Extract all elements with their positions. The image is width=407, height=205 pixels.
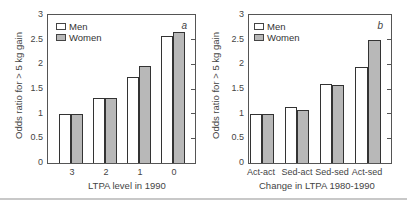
legend-men: Men (69, 21, 87, 32)
bar-men-3 (59, 114, 71, 163)
x-tick-label: Act-act (241, 167, 281, 177)
bar-women-act-sed (368, 40, 381, 163)
y-tick-label: 2.5 (23, 34, 43, 44)
x-axis-label: LTPA level in 1990 (88, 180, 166, 191)
bar-men-0 (161, 36, 173, 163)
legend-men: Men (267, 21, 285, 32)
legend-women: Women (267, 32, 300, 43)
y-axis-label: Odds ratio for > 5 kg gain (210, 32, 221, 139)
bar-men-2 (93, 98, 105, 163)
bar-women-sed-sed (332, 85, 344, 163)
bar-men-act-sed (355, 67, 368, 163)
y-tick-label: 3 (224, 9, 244, 19)
bar-men-1 (127, 77, 139, 163)
y-tick-label: 0 (224, 157, 244, 167)
divider (0, 198, 407, 200)
legend-b: Men Women (254, 21, 300, 43)
y-tick-label: 2 (23, 58, 43, 68)
men-swatch-icon (254, 23, 264, 30)
bar-women-act-act (262, 114, 274, 163)
plot-area-a: Men Women a (47, 14, 196, 164)
y-tick-label: 1 (23, 108, 43, 118)
chart-panel-a: Odds ratio for > 5 kg gain 3 2.5 2 1.5 1… (0, 0, 200, 195)
bar-men-act-act (250, 114, 262, 163)
y-tick-label: 2.5 (224, 34, 244, 44)
x-tick-label: Sed-sed (312, 167, 352, 177)
x-tick-label: Act-sed (347, 167, 387, 177)
bar-men-sed-sed (320, 84, 332, 163)
panel-letter: b (377, 20, 383, 31)
women-swatch-icon (254, 34, 264, 41)
x-tick-label: Sed-act (277, 167, 317, 177)
men-swatch-icon (56, 23, 66, 30)
y-tick-label: 1 (224, 108, 244, 118)
y-tick-label: 0.5 (23, 132, 43, 142)
bar-women-1 (139, 66, 151, 163)
chart-panel-b: Odds ratio for > 5 kg gain 3 2.5 2 1.5 1… (200, 0, 407, 195)
y-tick-label: 0.5 (224, 132, 244, 142)
bar-women-0 (173, 32, 185, 163)
women-swatch-icon (56, 34, 66, 41)
bar-women-3 (71, 114, 83, 163)
x-axis-label: Change in LTPA 1980-1990 (259, 180, 375, 191)
bar-men-sed-act (285, 107, 297, 163)
y-tick-label: 3 (23, 9, 43, 19)
x-tick-label: 0 (154, 167, 194, 177)
y-tick-label: 1.5 (23, 83, 43, 93)
y-tick-label: 0 (23, 157, 43, 167)
legend-women: Women (69, 32, 102, 43)
plot-area-b: Men Women b (248, 14, 392, 164)
panel-letter: a (181, 20, 187, 31)
legend-a: Men Women (56, 21, 102, 43)
bar-women-2 (105, 98, 117, 163)
y-tick-label: 2 (224, 58, 244, 68)
y-tick-label: 1.5 (224, 83, 244, 93)
bar-women-sed-act (297, 110, 309, 163)
